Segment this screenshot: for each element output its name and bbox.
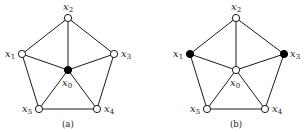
edge-x0-x3 <box>68 54 114 70</box>
label-x5: x5 <box>190 103 200 116</box>
label-x3: x3 <box>290 48 300 61</box>
label-x1: x1 <box>173 48 183 61</box>
node-x0 <box>232 66 239 73</box>
edge-x0-x1 <box>190 54 236 70</box>
node-x3 <box>280 50 287 57</box>
node-x1 <box>186 50 193 57</box>
node-x0 <box>64 66 71 73</box>
edge-x1-x2 <box>22 18 68 54</box>
edge-x2-x3 <box>236 18 284 54</box>
node-x2 <box>64 14 71 21</box>
node-x5 <box>203 105 210 112</box>
edge-x0-x1 <box>22 54 68 70</box>
node-x5 <box>35 105 42 112</box>
label-x3: x3 <box>121 48 131 61</box>
edge-x0-x4 <box>236 70 265 109</box>
edge-x0-x3 <box>236 54 284 70</box>
label-x2: x2 <box>63 1 73 14</box>
label-x4: x4 <box>104 103 115 116</box>
label-x4: x4 <box>272 103 283 116</box>
edge-x5-x1 <box>22 54 39 109</box>
label-x1: x1 <box>5 48 15 61</box>
wheel-graph-diagram: x0x1x2x3x4x5 x0x1x2x3x4x5 (a) (b) <box>0 0 304 132</box>
panel-a: x0x1x2x3x4x5 <box>5 1 131 116</box>
node-x3 <box>110 50 117 57</box>
node-x4 <box>261 105 268 112</box>
label-x0: x0 <box>230 77 240 90</box>
edge-x2-x3 <box>68 18 114 54</box>
node-x2 <box>232 14 239 21</box>
node-x4 <box>93 105 100 112</box>
label-x0: x0 <box>62 77 72 90</box>
caption-b: (b) <box>230 119 242 129</box>
edge-x3-x4 <box>97 54 114 109</box>
edge-x0-x4 <box>68 70 97 109</box>
panel-b: x0x1x2x3x4x5 <box>173 1 300 116</box>
edge-x1-x2 <box>190 18 236 54</box>
caption-a: (a) <box>62 119 74 129</box>
label-x2: x2 <box>231 1 241 14</box>
edge-x5-x1 <box>190 54 207 109</box>
label-x5: x5 <box>22 103 32 116</box>
edge-x3-x4 <box>265 54 284 109</box>
node-x1 <box>18 50 25 57</box>
edge-x0-x5 <box>207 70 236 109</box>
edge-x0-x5 <box>39 70 68 109</box>
